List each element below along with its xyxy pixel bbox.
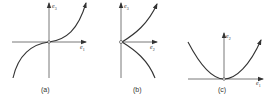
panel-b [120, 3, 158, 78]
panel-a-vertical-axis-label: e3 [52, 3, 57, 11]
panel-b-caption: (b) [133, 86, 142, 93]
panel-a-caption: (a) [41, 86, 50, 93]
panel-a-horizontal-axis-subscript: 1 [83, 47, 85, 52]
panel-b-horizontal-axis-subscript: 2 [153, 47, 155, 52]
panel-b-vertical-axis-subscript: 3 [127, 6, 129, 11]
panel-a-vertical-axis-subscript: 3 [55, 6, 57, 11]
panel-c-origin-point [223, 78, 226, 81]
panel-b-origin-point [120, 41, 123, 44]
panel-c-parabola-curve [188, 40, 261, 79]
panel-b-horizontal-axis-label: e2 [150, 44, 155, 52]
figure-canvas [0, 0, 268, 100]
panel-c-vertical-axis-subscript: 2 [229, 36, 231, 41]
panel-c-horizontal-axis-label: e1 [256, 80, 261, 88]
panel-c-horizontal-axis-subscript: 1 [259, 83, 261, 88]
panel-c-caption: (c) [218, 86, 226, 93]
panel-b-vertical-axis-label: e3 [124, 3, 129, 11]
panel-c-vertical-axis-label: e2 [226, 33, 231, 41]
panel-a-origin-point [48, 41, 51, 44]
panel-a [12, 3, 86, 78]
panel-a-horizontal-axis-label: e1 [80, 44, 85, 52]
